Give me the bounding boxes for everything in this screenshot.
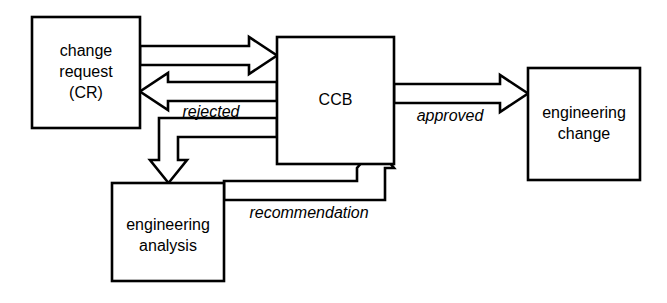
node-engineering-change <box>528 68 640 180</box>
edge-ccb-to-analysis-arrow <box>150 118 277 183</box>
edge-label-recommendation: recommendation <box>249 204 368 221</box>
node-engineering-analysis-label-line1: engineering <box>126 216 210 233</box>
change-control-flow-diagram: change request (CR) CCB engineering chan… <box>0 0 667 303</box>
edge-label-rejected: rejected <box>183 103 241 120</box>
node-engineering-change-label-line1: engineering <box>542 104 626 121</box>
node-engineering-analysis-label-line2: analysis <box>139 237 197 254</box>
node-change-request-label-line3: (CR) <box>69 84 103 101</box>
node-change-request-label-line2: request <box>59 63 113 80</box>
node-change-request-label-line1: change <box>60 42 113 59</box>
node-engineering-change-label-line2: change <box>558 125 611 142</box>
node-ccb-label-line1: CCB <box>319 91 353 108</box>
edge-cr-to-ccb-arrow <box>140 37 277 74</box>
edge-label-approved: approved <box>417 107 485 124</box>
flow-diagram-canvas: change request (CR) CCB engineering chan… <box>0 0 667 303</box>
